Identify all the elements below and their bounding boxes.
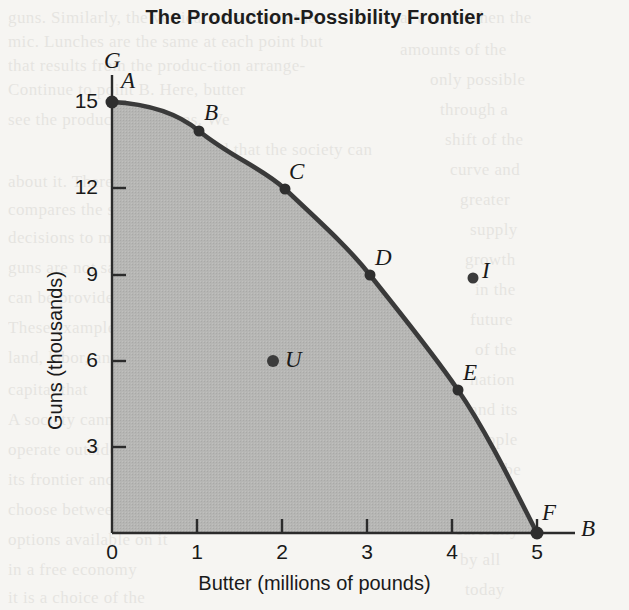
y-tick-label-12: 12 [58, 175, 98, 199]
point-label-e: E [463, 360, 477, 386]
point-label-d: D [375, 245, 392, 271]
y-tick-label-3: 3 [58, 434, 98, 458]
annotation-label-u: U [285, 347, 302, 373]
feasible-region-shading [112, 102, 537, 533]
x-axis-end-label-b: B [581, 516, 595, 542]
x-tick-label-3: 3 [352, 540, 382, 564]
data-point-b [194, 126, 205, 137]
x-tick-label-0: 0 [97, 540, 127, 564]
data-point-d [365, 270, 376, 281]
data-point-e [453, 385, 464, 396]
data-point-f [531, 527, 544, 540]
point-label-f: F [542, 500, 556, 526]
point-label-a: A [121, 68, 135, 94]
x-tick-label-1: 1 [182, 540, 212, 564]
annotation-point-i [468, 273, 479, 284]
x-axis-title: Butter (millions of pounds) [0, 572, 629, 595]
y-axis-end-label-g: G [104, 48, 121, 74]
y-axis-title: Guns (thousands) [44, 271, 67, 430]
annotation-point-u [267, 355, 279, 367]
y-tick-label-15: 15 [58, 89, 98, 113]
x-tick-label-5: 5 [522, 540, 552, 564]
annotation-label-i: I [482, 258, 490, 284]
x-tick-label-4: 4 [437, 540, 467, 564]
point-label-c: C [289, 159, 304, 185]
data-point-a [106, 96, 119, 109]
production-possibility-frontier-figure: The Production-Possibility Frontier [0, 0, 629, 610]
x-tick-label-2: 2 [267, 540, 297, 564]
point-label-b: B [204, 100, 218, 126]
data-point-c [280, 184, 291, 195]
